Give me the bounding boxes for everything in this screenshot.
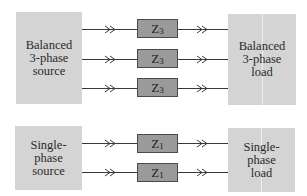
impedance-symbol: Z <box>151 51 159 67</box>
double-arrow-icon <box>104 55 118 64</box>
load-label: Single- phase load <box>243 141 279 180</box>
impedance-symbol: Z <box>151 80 159 96</box>
impedance-z3-3: Z3 <box>137 78 178 97</box>
impedance-z1-1: Z1 <box>137 134 178 153</box>
double-arrow-icon <box>196 84 210 93</box>
double-arrow-icon <box>196 25 210 34</box>
double-arrow-icon <box>196 168 210 177</box>
double-arrow-icon <box>104 139 118 148</box>
impedance-subscript: 1 <box>159 141 164 151</box>
impedance-symbol: Z <box>151 21 159 37</box>
double-arrow-icon <box>196 55 210 64</box>
double-arrow-icon <box>104 168 118 177</box>
source-label: Balanced 3-phase source <box>26 39 73 78</box>
single-phase-source: Single- phase source <box>15 126 82 190</box>
impedance-subscript: 3 <box>159 56 164 66</box>
impedance-z3-2: Z3 <box>137 49 178 68</box>
balanced-3-phase-load: Balanced 3-phase load <box>228 14 296 105</box>
impedance-z1-2: Z1 <box>137 163 178 182</box>
impedance-symbol: Z <box>151 165 159 181</box>
load-label: Balanced 3-phase load <box>239 40 286 79</box>
source-label: Single- phase source <box>30 139 66 178</box>
double-arrow-icon <box>104 84 118 93</box>
double-arrow-icon <box>104 25 118 34</box>
impedance-subscript: 3 <box>159 85 164 95</box>
single-phase-load: Single- phase load <box>228 128 295 192</box>
impedance-z3-1: Z3 <box>137 19 178 38</box>
balanced-3-phase-source: Balanced 3-phase source <box>16 12 82 104</box>
impedance-subscript: 3 <box>159 26 164 36</box>
impedance-symbol: Z <box>151 136 159 152</box>
impedance-subscript: 1 <box>159 170 164 180</box>
double-arrow-icon <box>196 139 210 148</box>
